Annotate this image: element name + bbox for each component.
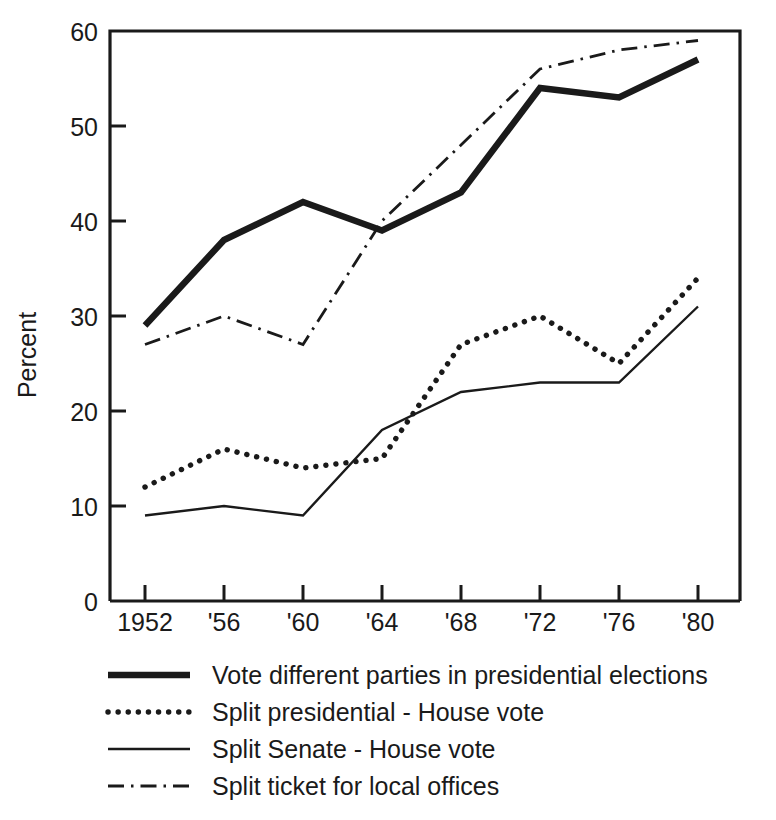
- x-axis-ticks: [145, 585, 698, 601]
- legend-label-0: Vote different parties in presidential e…: [212, 661, 708, 689]
- y-axis-title: Percent: [13, 312, 41, 398]
- x-tick-label-1980: '80: [682, 608, 715, 636]
- legend-label-3: Split ticket for local offices: [212, 772, 499, 800]
- legend-item-0[interactable]: Vote different parties in presidential e…: [108, 661, 708, 689]
- y-tick-label-0: 0: [84, 588, 98, 616]
- y-tick-label-40: 40: [70, 208, 98, 236]
- y-axis-ticks: [110, 126, 126, 506]
- legend: Vote different parties in presidential e…: [108, 661, 708, 800]
- line-chart: 60 50 40 30 20 10 0 Percent 1952 '56 '60…: [0, 0, 776, 820]
- y-tick-label-60: 60: [70, 18, 98, 46]
- legend-item-3[interactable]: Split ticket for local offices: [108, 772, 499, 800]
- x-axis-tick-labels: 1952 '56 '60 '64 '68 '72 '76 '80: [117, 608, 714, 636]
- legend-label-2: Split Senate - House vote: [212, 735, 496, 763]
- y-tick-label-10: 10: [70, 493, 98, 521]
- y-tick-label-50: 50: [70, 113, 98, 141]
- chart-page: 60 50 40 30 20 10 0 Percent 1952 '56 '60…: [0, 0, 776, 820]
- data-series-group: [145, 41, 698, 516]
- legend-item-2[interactable]: Split Senate - House vote: [108, 735, 496, 763]
- series-split-senate-house: [145, 307, 698, 516]
- plot-frame: [110, 31, 740, 601]
- x-tick-label-1964: '64: [366, 608, 399, 636]
- x-tick-label-1972: '72: [524, 608, 557, 636]
- series-vote-different-parties: [145, 60, 698, 326]
- legend-label-1: Split presidential - House vote: [212, 698, 544, 726]
- y-tick-label-20: 20: [70, 398, 98, 426]
- y-axis-tick-labels: 60 50 40 30 20 10 0: [70, 18, 98, 616]
- x-tick-label-1968: '68: [445, 608, 478, 636]
- x-tick-label-1976: '76: [603, 608, 636, 636]
- x-tick-label-1952: 1952: [117, 608, 173, 636]
- legend-item-1[interactable]: Split presidential - House vote: [108, 698, 544, 726]
- y-tick-label-30: 30: [70, 303, 98, 331]
- series-split-ticket-local: [145, 41, 698, 345]
- x-tick-label-1960: '60: [287, 608, 320, 636]
- x-tick-label-1956: '56: [208, 608, 241, 636]
